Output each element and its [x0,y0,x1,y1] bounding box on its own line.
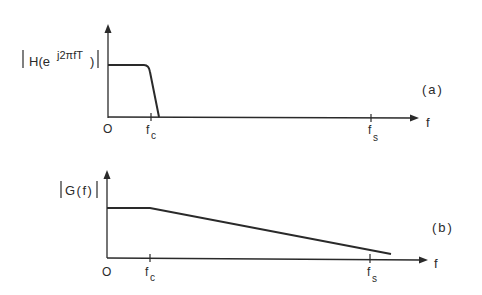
panel-b-ylabel: G(f) [65,183,93,198]
panel-b-response-curve [107,208,391,254]
figure-canvas: H(e j2πfT ) O f c f s f (a) G(f) O f c f… [0,0,482,295]
panel-a-y-arrow-icon [105,24,112,33]
panel-a-ylabel-close: ) [90,54,94,69]
panel-b-fs-label: f [367,265,371,279]
panel-b-fs-sub: s [372,273,377,284]
panel-b-tag: (b) [432,220,454,235]
panel-a: H(e j2πfT ) O f c f s f (a) [23,24,444,143]
panel-b-fc-label: f [145,265,149,279]
panel-a-ylabel-exp: j2πfT [56,49,83,61]
panel-a-ylabel-base: H(e [29,54,50,69]
panel-a-fc-sub: c [151,130,156,141]
panel-a-x-axis-label: f [426,115,430,130]
panel-b-x-axis-label: f [434,256,438,271]
panel-a-x-axis [108,117,412,118]
panel-a-fc-label: f [146,123,150,137]
panel-b-fc-sub: c [150,272,155,283]
panel-a-fs-sub: s [373,132,378,143]
panel-b-x-axis [107,258,421,260]
panel-b-x-arrow-icon [419,257,428,264]
panel-a-x-arrow-icon [410,115,419,122]
panel-b-origin-label: O [102,265,111,279]
panel-a-fs-label: f [368,123,372,137]
panel-a-tag: (a) [422,82,444,97]
panel-a-response-curve [108,65,159,117]
panel-a-origin-label: O [103,122,112,136]
panel-b-y-arrow-icon [104,170,111,179]
panel-b: G(f) O f c f s f (b) [61,170,454,284]
